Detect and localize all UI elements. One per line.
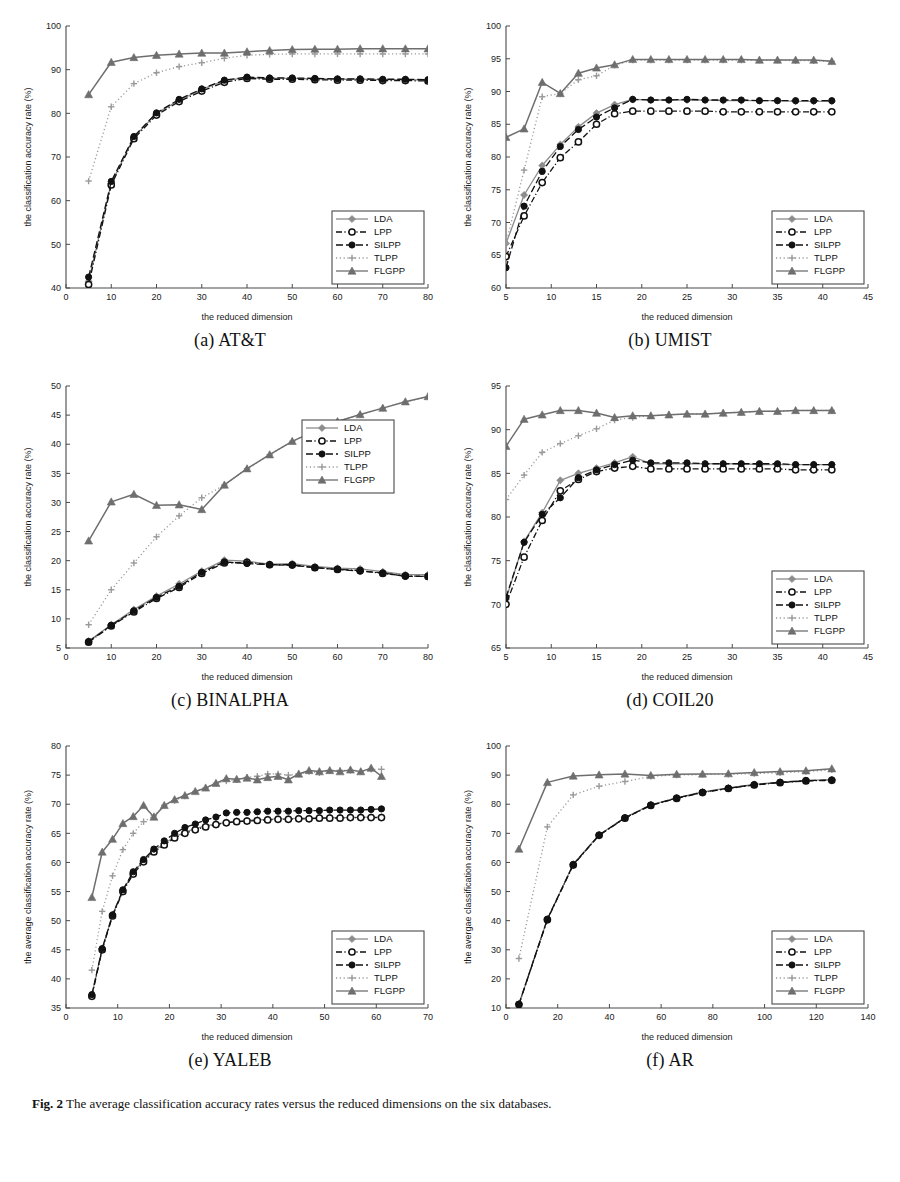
panel-ar: 020406080100120140102030405060708090100t… (450, 734, 890, 1094)
svg-text:10: 10 (106, 292, 116, 302)
svg-text:10: 10 (546, 652, 556, 662)
svg-text:LPP: LPP (814, 946, 832, 957)
svg-text:30: 30 (197, 292, 207, 302)
plot-ar: 020406080100120140102030405060708090100t… (460, 734, 880, 1046)
panel-caption-coil20: (d) COIL20 (626, 690, 713, 711)
svg-text:70: 70 (378, 292, 388, 302)
svg-text:TLPP: TLPP (814, 252, 838, 263)
svg-text:80: 80 (708, 1012, 718, 1022)
svg-text:65: 65 (491, 643, 501, 653)
svg-text:95: 95 (491, 381, 501, 391)
svg-text:LDA: LDA (814, 573, 833, 584)
svg-text:the reduced dimension: the reduced dimension (641, 1032, 732, 1042)
svg-text:70: 70 (491, 218, 501, 228)
svg-text:25: 25 (682, 652, 692, 662)
svg-text:5: 5 (56, 643, 61, 653)
svg-text:LPP: LPP (344, 435, 362, 446)
figure-row-1: 01020304050607080405060708090100the redu… (10, 14, 890, 374)
svg-text:TLPP: TLPP (814, 972, 838, 983)
panel-caption-yaleb: (e) YALEB (188, 1050, 272, 1071)
svg-text:30: 30 (197, 652, 207, 662)
plot-yaleb: 01020304050607035404550556065707580the r… (20, 734, 440, 1046)
panel-att: 01020304050607080405060708090100the redu… (10, 14, 450, 374)
svg-text:20: 20 (164, 1012, 174, 1022)
svg-text:30: 30 (51, 498, 61, 508)
svg-text:20: 20 (637, 292, 647, 302)
figure-caption: Fig. 2 The average classification accura… (10, 1096, 890, 1112)
svg-text:85: 85 (491, 469, 501, 479)
svg-text:35: 35 (772, 292, 782, 302)
svg-text:40: 40 (242, 652, 252, 662)
svg-text:15: 15 (591, 292, 601, 302)
panel-binalpha: 010203040506070805101520253035404550the … (10, 374, 450, 734)
svg-text:45: 45 (863, 652, 873, 662)
svg-text:60: 60 (656, 1012, 666, 1022)
svg-text:the classification accuracy ra: the classification accuracy rate (%) (463, 87, 473, 226)
svg-text:FLGPP: FLGPP (814, 265, 845, 276)
panel-caption-att: (a) AT&T (194, 330, 266, 351)
figure-caption-label: Fig. 2 (32, 1096, 63, 1111)
svg-text:20: 20 (51, 556, 61, 566)
svg-text:75: 75 (51, 770, 61, 780)
svg-text:120: 120 (809, 1012, 824, 1022)
plot-att: 01020304050607080405060708090100the redu… (20, 14, 440, 326)
svg-text:30: 30 (491, 945, 501, 955)
svg-text:30: 30 (727, 292, 737, 302)
svg-text:the reduced dimension: the reduced dimension (641, 672, 732, 682)
svg-text:TLPP: TLPP (374, 252, 398, 263)
figure-caption-text: The average classification accuracy rate… (66, 1096, 552, 1111)
svg-text:100: 100 (46, 21, 61, 31)
svg-text:140: 140 (860, 1012, 875, 1022)
svg-text:80: 80 (51, 109, 61, 119)
svg-text:the avergae classification acc: the avergae classification accuracy rate… (463, 790, 473, 964)
svg-text:40: 40 (51, 283, 61, 293)
svg-text:35: 35 (51, 1003, 61, 1013)
svg-text:5: 5 (503, 292, 508, 302)
svg-text:80: 80 (423, 652, 433, 662)
svg-text:40: 40 (268, 1012, 278, 1022)
svg-text:20: 20 (491, 974, 501, 984)
svg-text:10: 10 (51, 614, 61, 624)
svg-text:70: 70 (491, 600, 501, 610)
svg-text:FLGPP: FLGPP (374, 265, 405, 276)
svg-text:40: 40 (491, 916, 501, 926)
figure-row-3: 01020304050607035404550556065707580the r… (10, 734, 890, 1094)
svg-text:70: 70 (378, 652, 388, 662)
svg-text:70: 70 (51, 799, 61, 809)
svg-text:60: 60 (332, 652, 342, 662)
svg-text:the classification accuracy ra: the classification accuracy rate (%) (23, 87, 33, 226)
svg-text:80: 80 (491, 799, 501, 809)
svg-text:the reduced dimension: the reduced dimension (201, 672, 292, 682)
svg-text:TLPP: TLPP (814, 612, 838, 623)
svg-text:LDA: LDA (374, 213, 393, 224)
svg-text:100: 100 (757, 1012, 772, 1022)
plot-umist: 510152025303540456065707580859095100the … (460, 14, 880, 326)
svg-text:90: 90 (51, 65, 61, 75)
svg-text:80: 80 (491, 152, 501, 162)
svg-text:80: 80 (51, 741, 61, 751)
svg-text:90: 90 (491, 425, 501, 435)
svg-text:45: 45 (863, 292, 873, 302)
svg-text:25: 25 (51, 527, 61, 537)
panel-caption-ar: (f) AR (646, 1050, 694, 1071)
svg-text:the reduced dimension: the reduced dimension (201, 1032, 292, 1042)
svg-text:15: 15 (51, 585, 61, 595)
svg-text:40: 40 (242, 292, 252, 302)
svg-text:75: 75 (491, 556, 501, 566)
svg-text:90: 90 (491, 87, 501, 97)
figure-container: 01020304050607080405060708090100the redu… (0, 0, 900, 1182)
svg-text:20: 20 (151, 292, 161, 302)
svg-text:TLPP: TLPP (344, 461, 368, 472)
svg-text:60: 60 (51, 858, 61, 868)
svg-text:20: 20 (553, 1012, 563, 1022)
svg-text:60: 60 (51, 196, 61, 206)
plot-coil20: 5101520253035404565707580859095the reduc… (460, 374, 880, 686)
svg-text:65: 65 (491, 250, 501, 260)
svg-text:SILPP: SILPP (374, 239, 401, 250)
svg-text:50: 50 (491, 887, 501, 897)
svg-text:60: 60 (491, 858, 501, 868)
svg-text:70: 70 (423, 1012, 433, 1022)
panel-caption-umist: (b) UMIST (628, 330, 711, 351)
svg-text:10: 10 (113, 1012, 123, 1022)
svg-text:85: 85 (491, 119, 501, 129)
